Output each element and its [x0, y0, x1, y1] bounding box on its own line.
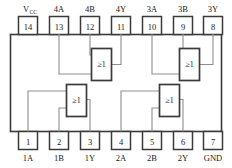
- pin-14-label: V CC: [23, 4, 37, 15]
- gate-1-symbol: ≥1: [72, 96, 80, 105]
- pin-1-number: 1: [26, 137, 30, 147]
- pin-6-label: 2Y: [178, 153, 188, 163]
- gate-3-symbol: ≥1: [185, 60, 193, 69]
- pin-7[interactable]: 7 GND: [204, 132, 223, 164]
- pin-11-number: 11: [117, 22, 125, 32]
- pin-5-number: 5: [150, 137, 154, 147]
- pin-1[interactable]: 1 1A: [19, 132, 38, 164]
- pin-12-number: 12: [86, 22, 95, 32]
- pin-3-number: 3: [88, 137, 92, 147]
- pin-10-number: 10: [148, 22, 157, 32]
- pin-13[interactable]: 13 4A: [50, 4, 69, 35]
- pin-10[interactable]: 10 3A: [143, 4, 162, 35]
- pin-1-label: 1A: [23, 153, 34, 163]
- pin-8-number: 8: [211, 22, 215, 32]
- pin-8[interactable]: 8 3Y: [204, 4, 223, 35]
- pin-12[interactable]: 12 4B: [81, 4, 100, 35]
- pin-2[interactable]: 2 1B: [50, 132, 69, 164]
- pin-5[interactable]: 5 2B: [143, 132, 162, 164]
- diagram-canvas: 14 V CC 13 4A 12 4B 11 4: [0, 0, 232, 168]
- pin-4[interactable]: 4 2A: [112, 132, 131, 164]
- gate-4-symbol: ≥1: [97, 60, 105, 69]
- pin-14-label-subscript: CC: [30, 9, 38, 15]
- gate-2-symbol: ≥1: [165, 96, 173, 105]
- pin-6-number: 6: [181, 137, 185, 147]
- pin-14-number: 14: [24, 22, 33, 32]
- pin-11-label: 4Y: [116, 4, 126, 14]
- pin-9-label: 3B: [178, 4, 188, 14]
- gate-2[interactable]: ≥1: [160, 85, 180, 117]
- pin-7-number: 7: [211, 137, 215, 147]
- pin-2-number: 2: [57, 137, 61, 147]
- pin-5-label: 2B: [147, 153, 157, 163]
- pin-13-number: 13: [55, 22, 64, 32]
- pin-3-label: 1Y: [85, 153, 95, 163]
- gate-3[interactable]: ≥1: [180, 49, 200, 81]
- gate-1[interactable]: ≥1: [67, 85, 87, 117]
- pin-13-label: 4A: [54, 4, 65, 14]
- pin-14[interactable]: 14 V CC: [19, 4, 38, 35]
- pin-2-label: 1B: [54, 153, 64, 163]
- bottom-pin-row: 1 1A 2 1B 3 1Y 4 2A: [19, 132, 223, 164]
- pin-3[interactable]: 3 1Y: [81, 132, 100, 164]
- pin-9-number: 9: [181, 22, 185, 32]
- pin-7-label: GND: [204, 153, 222, 163]
- top-pin-row: 14 V CC 13 4A 12 4B 11 4: [19, 4, 223, 35]
- pin-9[interactable]: 9 3B: [174, 4, 193, 35]
- pin-8-label: 3Y: [208, 4, 218, 14]
- pin-10-label: 3A: [147, 4, 158, 14]
- pin-4-label: 2A: [116, 153, 127, 163]
- pin-11[interactable]: 11 4Y: [112, 4, 131, 35]
- pin-6[interactable]: 6 2Y: [174, 132, 193, 164]
- pin-12-label: 4B: [85, 4, 95, 14]
- ic-pinout-diagram: 14 V CC 13 4A 12 4B 11 4: [0, 0, 232, 168]
- gate-4[interactable]: ≥1: [92, 49, 112, 81]
